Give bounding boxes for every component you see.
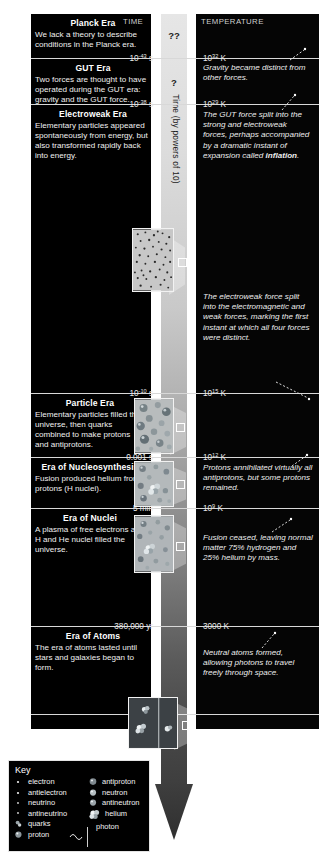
temp-note-electroweak-split: The electroweak force split into the ele…	[203, 292, 313, 343]
key-label: antielectron	[28, 788, 67, 798]
divider-electroweak-particle	[31, 393, 319, 394]
illustration-scale-marker	[176, 542, 185, 551]
illustration-nucleosynthesis-era	[134, 461, 174, 507]
era-block-planck: Planck Era We lack a theory to describe …	[31, 16, 155, 50]
illustration-atoms-era	[128, 697, 178, 749]
era-block-atoms: Era of Atoms The era of atoms lasted unt…	[31, 629, 155, 673]
temp-tick-gut: 1029 K	[203, 99, 226, 110]
key-item-photon: photon	[88, 822, 140, 832]
era-description: A plasma of free electrons and H and He …	[35, 525, 145, 555]
era-block-nucleosynthesis: Era of Nucleosynthesis Fusion produced h…	[31, 460, 149, 494]
era-block-particle: Particle Era Elementary particles filled…	[31, 396, 149, 450]
key-label: antineutrino	[28, 809, 67, 819]
era-title: Particle Era	[35, 398, 145, 409]
era-description: Elementary particles filled the universe…	[35, 410, 145, 450]
key-item-antineutrino: antineutrino	[14, 809, 84, 819]
illustration-nuclei-era	[134, 515, 174, 573]
era-title: Electroweak Era	[35, 109, 151, 120]
antineutron-icon	[88, 798, 99, 807]
quarks-icon	[14, 819, 25, 828]
era-title: Planck Era	[35, 18, 151, 29]
key-divider	[87, 827, 88, 847]
time-tick-planck: 10-43 s	[95, 53, 153, 64]
key-item-antineutron: antineutron	[88, 798, 140, 808]
time-tick-gut: 10-38 s	[95, 99, 153, 110]
illustration-scale-marker	[178, 258, 187, 267]
key-item-antiproton: antiproton	[88, 777, 140, 787]
era-title: Era of Atoms	[35, 631, 151, 642]
antiproton-icon	[88, 777, 99, 786]
key-label: neutron	[102, 788, 127, 798]
key-label: photon	[96, 822, 119, 832]
photon-wave-icon	[69, 831, 87, 841]
era-title: Era of Nucleosynthesis	[35, 462, 145, 473]
neutron-icon	[88, 788, 99, 797]
key-label: quarks	[28, 819, 51, 829]
neutrino-icon	[14, 798, 25, 807]
illustration-scale-marker	[176, 423, 185, 432]
electron-icon	[14, 777, 25, 786]
era-title: GUT Era	[35, 63, 151, 74]
key-label: neutrino	[28, 798, 55, 808]
key-item-neutron: neutron	[88, 788, 140, 798]
key-item-antielectron: antielectron	[14, 788, 84, 798]
helium-icon	[88, 809, 102, 818]
key-column-left: electron antielectron neutrino antineutr…	[14, 777, 84, 839]
illustration-scale-marker	[182, 721, 191, 730]
key-label: proton	[28, 830, 49, 840]
temp-note-gravity: Gravity became distinct from other force…	[203, 63, 313, 83]
era-description: The era of atoms lasted until stars and …	[35, 643, 151, 673]
temp-tick-electroweak: 1015 K	[203, 388, 226, 399]
key-item-electron: electron	[14, 777, 84, 787]
key-label: antiproton	[102, 777, 135, 787]
key-legend: Key electron antielectron neutrino	[8, 760, 150, 852]
era-description: Elementary particles appeared spontaneou…	[35, 121, 151, 161]
divider-particle-nucleosynthesis	[31, 457, 319, 458]
time-axis-arrowhead	[155, 784, 193, 840]
cosmology-timeline-figure: TIME TEMPERATURE ?? ? Time (by powers of…	[0, 0, 319, 859]
key-column-right: antiproton neutron	[88, 777, 140, 839]
key-item-quarks: quarks	[14, 819, 84, 829]
time-tick-nuclei: 380,000 yr	[80, 622, 153, 631]
proton-icon	[14, 830, 25, 839]
temp-note-annihilation: Protons annihilated virtually all antipr…	[203, 463, 313, 494]
divider-nucleosynthesis-nuclei	[31, 508, 319, 509]
temp-note-neutral-atoms: Neutral atoms formed, allowing photons t…	[203, 648, 313, 679]
era-block-nuclei: Era of Nuclei A plasma of free electrons…	[31, 511, 149, 555]
era-description: Fusion produced helium from protons (H n…	[35, 474, 145, 494]
key-item-neutrino: neutrino	[14, 798, 84, 808]
temp-tick-nucleosynthesis: 109 K	[203, 503, 223, 514]
key-label: electron	[28, 777, 55, 787]
divider-nuclei-atoms	[31, 626, 319, 627]
divider-planck-gut	[31, 58, 319, 59]
illustration-electroweak-era	[132, 228, 174, 292]
inflation-emphasis: inflation	[266, 151, 297, 160]
illustration-particle-era	[134, 398, 174, 454]
time-tick-electroweak: 10-10 s	[95, 388, 153, 399]
era-block-electroweak: Electroweak Era Elementary particles app…	[31, 107, 155, 161]
key-title: Key	[15, 765, 144, 775]
antielectron-icon	[14, 788, 25, 797]
time-axis-label: Time (by powers of 10)	[171, 74, 181, 204]
temp-note-gut-split: The GUT force split into the strong and …	[203, 110, 313, 161]
key-label: helium	[105, 809, 127, 819]
era-description: We lack a theory to describe conditions …	[35, 30, 151, 50]
temp-tick-particle: 1012 K	[203, 452, 226, 463]
unknown-time-top: ??	[161, 30, 187, 41]
illustration-scale-marker	[176, 480, 185, 489]
key-label: antineutron	[102, 798, 140, 808]
temperature-column-header: TEMPERATURE	[201, 17, 264, 26]
key-item-helium: helium	[88, 809, 140, 819]
temp-tick-nuclei: 3000 K	[203, 622, 229, 631]
antineutrino-icon	[14, 809, 25, 818]
era-title: Era of Nuclei	[35, 513, 145, 524]
temp-note-fusion-ceased: Fusion ceased, leaving normal matter 75%…	[203, 533, 313, 564]
temp-tick-planck: 1032 K	[203, 53, 226, 64]
